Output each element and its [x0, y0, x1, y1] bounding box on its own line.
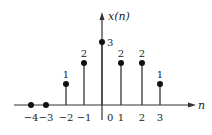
- x-axis-label: n: [198, 99, 205, 112]
- x-tick-label: −2: [59, 112, 74, 123]
- x-tick-label: −4: [24, 112, 39, 123]
- data-point: [118, 60, 124, 66]
- value-label: 3: [107, 37, 113, 48]
- x-tick-label: 1: [118, 112, 124, 123]
- value-label: 2: [81, 48, 87, 59]
- data-point: [81, 60, 87, 66]
- x-tick-label: −1: [77, 112, 92, 123]
- value-label: 2: [139, 48, 145, 59]
- x-tick-label: 3: [157, 112, 163, 123]
- x-tick-label: −3: [39, 112, 54, 123]
- value-label: 2: [118, 48, 124, 59]
- value-label: 1: [63, 69, 69, 80]
- data-point: [28, 102, 34, 108]
- x-axis-arrow-icon: [188, 103, 196, 108]
- data-point: [63, 81, 69, 87]
- data-point: [157, 81, 163, 87]
- data-point: [99, 39, 105, 45]
- x-tick-label: 2: [139, 112, 145, 123]
- y-axis-arrow-icon: [100, 12, 105, 20]
- data-point: [139, 60, 145, 66]
- value-label: 1: [157, 69, 163, 80]
- data-point: [43, 102, 49, 108]
- x-tick-label: 0: [107, 112, 113, 123]
- y-axis-label: x(n): [108, 10, 130, 23]
- stems: 123221: [28, 37, 163, 108]
- stem-plot: n x(n) 123221 −4−3−2−10123: [0, 0, 212, 135]
- tick-labels: −4−3−2−10123: [24, 112, 164, 123]
